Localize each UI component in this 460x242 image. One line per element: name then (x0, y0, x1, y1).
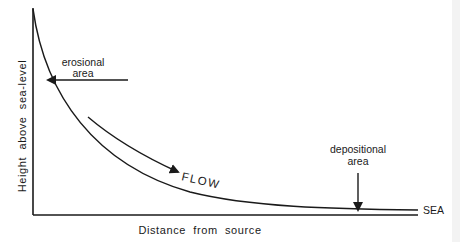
river-profile-diagram: erosional area depositional area FLOW SE… (0, 0, 460, 242)
depositional-area-label: area (347, 155, 368, 167)
depositional-label: depositional (330, 143, 386, 155)
x-axis-label: Distance from source (138, 224, 261, 236)
long-profile-curve (33, 9, 418, 210)
y-axis-label: Height above sea-level (16, 60, 28, 192)
flow-label: FLOW (181, 170, 222, 191)
diagram-canvas: erosional area depositional area FLOW SE… (0, 0, 460, 242)
sea-label: SEA (423, 204, 444, 216)
erosional-area-label: area (72, 67, 93, 79)
